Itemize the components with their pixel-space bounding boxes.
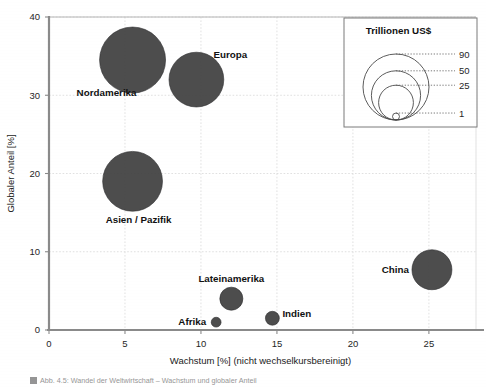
legend-value-90: 90 [459, 49, 470, 60]
bubble-label-afrika: Afrika [178, 316, 206, 327]
y-tick-label: 40 [29, 11, 40, 22]
y-axis-title: Globaler Anteil [%] [5, 134, 16, 212]
x-tick-label: 0 [46, 338, 51, 349]
bubble-china[interactable] [412, 250, 452, 290]
x-axis-title: Wachstum [%] (nicht wechselkursbereinigt… [170, 355, 351, 366]
x-tick-label: 15 [272, 338, 283, 349]
bubble-asien-pazifik[interactable] [103, 151, 163, 211]
bubble-label-china: China [382, 264, 410, 275]
legend-title: Trillionen US$ [366, 25, 432, 36]
x-tick-label: 10 [196, 338, 207, 349]
y-tick-label: 30 [29, 90, 40, 101]
caption-text: Abb. 4.5: Wandel der Weltwirtschaft – Wa… [40, 376, 257, 385]
legend-value-50: 50 [459, 65, 470, 76]
bubble-label-lateinamerika: Lateinamerika [198, 273, 264, 284]
bubble-label-nordamerika: Nordamerika [77, 87, 137, 98]
bubble-label-asien-pazifik: Asien / Pazifik [106, 214, 172, 225]
legend-value-1: 1 [459, 108, 464, 119]
x-tick-label: 20 [348, 338, 359, 349]
x-tick-label: 5 [122, 338, 127, 349]
bubble-lateinamerika[interactable] [220, 287, 243, 310]
bubble-label-europa: Europa [214, 49, 248, 60]
size-legend: Trillionen US$9050251 [344, 18, 477, 127]
bubble-label-indien: Indien [282, 308, 311, 319]
y-axis-ticks: 010203040 [29, 11, 49, 335]
axis-titles: Wachstum [%] (nicht wechselkursbereinigt… [5, 134, 351, 366]
bubble-europa[interactable] [169, 52, 224, 107]
bubble-nordamerika[interactable] [100, 27, 166, 93]
bubble-indien[interactable] [265, 311, 279, 325]
figure-caption: Abb. 4.5: Wandel der Weltwirtschaft – Wa… [30, 376, 480, 385]
x-axis-ticks: 0510152025 [46, 330, 434, 349]
legend-value-25: 25 [459, 80, 470, 91]
y-tick-label: 10 [29, 246, 40, 257]
x-tick-label: 25 [424, 338, 435, 349]
y-tick-label: 20 [29, 168, 40, 179]
y-tick-label: 0 [35, 324, 40, 335]
bubble-afrika[interactable] [211, 317, 221, 327]
bubble-chart-figure: 0102030400510152025Wachstum [%] (nicht w… [0, 0, 486, 387]
caption-swatch-icon [30, 377, 37, 384]
chart-canvas: 0102030400510152025Wachstum [%] (nicht w… [0, 0, 486, 387]
